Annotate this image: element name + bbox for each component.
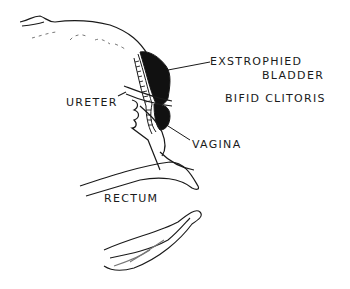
vagina-leader (168, 126, 190, 140)
label-bladder: BLADDER (262, 70, 324, 82)
perineum (104, 211, 201, 270)
bladder-leader (168, 62, 210, 70)
label-vagina: VAGINA (192, 139, 241, 151)
label-exstrophied: EXSTROPHIED (210, 56, 302, 68)
diagram-artwork (0, 0, 350, 289)
wall-texture (32, 32, 126, 50)
bladder (134, 52, 170, 134)
label-bifid-clitoris: BIFID CLITORIS (225, 93, 326, 105)
label-rectum: RECTUM (104, 193, 158, 205)
label-ureter: URETER (66, 97, 118, 109)
rectum (80, 162, 199, 196)
anatomical-diagram: EXSTROPHIED BLADDER BIFID CLITORIS URETE… (0, 0, 350, 289)
